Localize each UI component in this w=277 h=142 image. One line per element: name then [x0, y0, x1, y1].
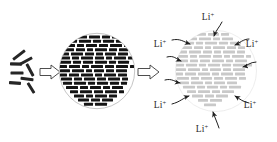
assembled-microsphere: [59, 33, 135, 108]
nanorod-assembly-diagram: Schematic of nanorod assembly into micro…: [0, 0, 277, 142]
